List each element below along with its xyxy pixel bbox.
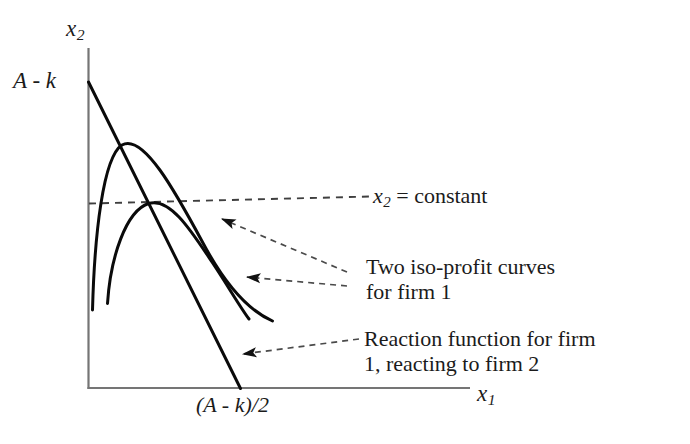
isoprofit-label-line1: Two iso-profit curves (366, 255, 555, 280)
leader-line-isoprofit-lower (247, 277, 347, 286)
isoprofit-label: Two iso-profit curvesfor firm 1 (366, 255, 555, 304)
x2-constant-dashed-line (89, 197, 371, 204)
reaction-label-line1: Reaction function for firm (364, 327, 596, 352)
leader-lines-group (222, 219, 359, 354)
reaction-function-line (89, 82, 241, 389)
reaction-function-group (89, 82, 241, 389)
isoprofit-curves-group (93, 143, 273, 321)
iso-profit-reaction-function-figure: x2 x1 A - k (A - k)/2 x2 = constant Two … (0, 0, 690, 444)
x-axis-label: x1 (477, 381, 496, 409)
isoprofit-label-line2: for firm 1 (366, 280, 555, 305)
constant-line-group (89, 197, 371, 204)
y-axis-label: x2 (66, 16, 85, 44)
isoprofit-curve-upper (93, 143, 273, 321)
leader-line-isoprofit-upper (222, 219, 347, 272)
reaction-label-line2: 1, reacting to firm 2 (364, 352, 596, 377)
constant-line-label: x2 = constant (373, 184, 487, 211)
reaction-label: Reaction function for firm1, reacting to… (364, 327, 596, 376)
leader-line-reaction (243, 339, 359, 354)
figure-canvas (0, 0, 690, 444)
x-tick-label: (A - k)/2 (196, 393, 269, 418)
y-intercept-label: A - k (13, 68, 56, 94)
